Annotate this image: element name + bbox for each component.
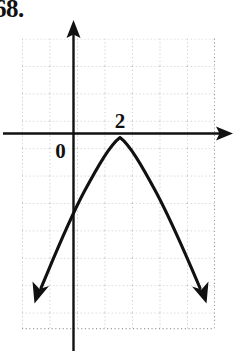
math-figure: 68. 0 2 — [0, 0, 237, 351]
parabola-plot: 0 2 — [0, 0, 237, 351]
origin-label: 0 — [55, 139, 66, 163]
grid-area — [22, 39, 215, 329]
vertex-label: 2 — [115, 109, 126, 133]
